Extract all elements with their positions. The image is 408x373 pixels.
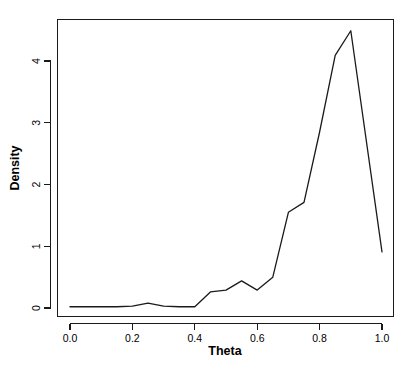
x-tick-label: 1.0 [375,332,390,344]
y-tick-labels: 01234 [30,58,42,311]
y-tick-label: 1 [30,243,42,249]
x-axis-title: Theta [208,344,242,358]
y-tick-label: 0 [30,305,42,311]
x-tick-marks [70,324,382,331]
density-curve [70,31,382,307]
plot-frame-box [58,20,394,317]
y-axis: 01234 [30,58,51,311]
y-tick-marks [44,61,51,308]
x-tick-label: 0.2 [125,332,140,344]
y-tick-label: 3 [30,120,42,126]
x-tick-label: 0.4 [187,332,202,344]
x-tick-label: 0.0 [63,332,78,344]
x-axis: 0.00.20.40.60.81.0 [63,324,390,345]
y-tick-label: 4 [30,58,42,64]
plot-canvas: 01234 0.00.20.40.60.81.0 Theta Density [0,0,408,373]
x-tick-label: 0.8 [312,332,327,344]
y-axis-title: Density [8,145,22,190]
density-plot-figure: 01234 0.00.20.40.60.81.0 Theta Density [0,0,408,373]
x-tick-labels: 0.00.20.40.60.81.0 [63,332,390,344]
y-tick-label: 2 [30,181,42,187]
x-tick-label: 0.6 [250,332,265,344]
